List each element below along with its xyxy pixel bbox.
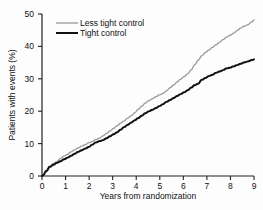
x-axis-title: Years from randomization: [100, 191, 197, 201]
legend-label: Tight control: [80, 28, 127, 38]
x-tick-label: 0: [40, 181, 45, 191]
x-tick-label: 9: [252, 181, 257, 191]
y-tick-label: 10: [25, 139, 35, 149]
x-tick-label: 7: [205, 181, 210, 191]
data-series-group: [42, 20, 254, 176]
x-tick-label: 8: [228, 181, 233, 191]
x-tick-label: 1: [63, 181, 68, 191]
x-tick-label: 4: [134, 181, 139, 191]
legend-label: Less tight control: [80, 18, 144, 28]
series-line-tight-control: [42, 59, 254, 176]
chart-figure: 01020304050 0123456789 Less tight contro…: [0, 0, 263, 210]
chart-legend: Less tight controlTight control: [56, 18, 144, 38]
y-axis-ticks: 01020304050: [25, 9, 42, 181]
x-tick-label: 3: [110, 181, 115, 191]
x-tick-label: 2: [87, 181, 92, 191]
y-tick-label: 20: [25, 106, 35, 116]
survival-curve-chart: 01020304050 0123456789 Less tight contro…: [0, 0, 263, 210]
y-tick-label: 0: [29, 171, 34, 181]
series-line-less-tight-control: [42, 20, 254, 176]
y-tick-label: 50: [25, 9, 35, 19]
x-tick-label: 6: [181, 181, 186, 191]
axes-group: [42, 14, 254, 176]
y-tick-label: 40: [25, 41, 35, 51]
y-axis-title: Patients with events (%): [7, 49, 17, 140]
x-axis-ticks: 0123456789: [40, 176, 257, 191]
x-tick-label: 5: [157, 181, 162, 191]
y-tick-label: 30: [25, 74, 35, 84]
